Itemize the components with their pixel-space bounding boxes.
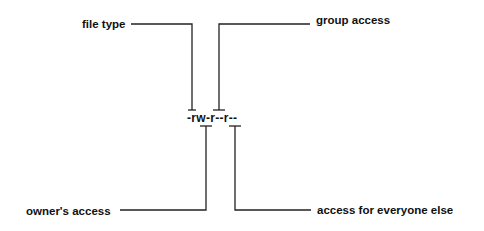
group-access-label: group access xyxy=(316,13,390,27)
file-type-connector xyxy=(131,24,192,110)
file-type-label: file type xyxy=(82,17,125,31)
connector-lines xyxy=(0,0,484,231)
owners-access-label: owner's access xyxy=(26,204,111,218)
owners-access-connector xyxy=(120,126,206,210)
group-access-connector xyxy=(219,24,310,110)
permission-string: -rw-r--r-- xyxy=(187,111,237,125)
everyone-else-label: access for everyone else xyxy=(317,203,453,217)
everyone-else-connector xyxy=(235,126,311,210)
